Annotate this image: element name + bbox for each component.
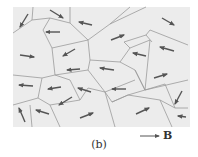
magnetization-arrow-icon [178, 116, 186, 117]
magnetization-arrow-icon [67, 69, 80, 70]
figure-caption: (b) [0, 138, 198, 151]
magnetization-arrow-icon [19, 85, 33, 86]
domain-panel [13, 7, 190, 127]
